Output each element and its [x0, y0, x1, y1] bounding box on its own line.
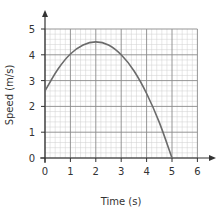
y-axis-title: Speed (m/s)	[4, 65, 15, 126]
y-tick-label: 4	[29, 50, 35, 61]
major-grid	[45, 29, 197, 158]
x-tick-label: 6	[194, 166, 200, 177]
x-tick-label: 5	[169, 166, 175, 177]
y-axis-arrow-icon	[42, 10, 48, 17]
x-axis-title: Time (s)	[100, 196, 142, 207]
speed-curve	[45, 42, 172, 158]
x-tick-label: 0	[42, 166, 48, 177]
x-tick-label: 4	[143, 166, 149, 177]
x-tick-label: 2	[93, 166, 99, 177]
y-tick-label: 0	[29, 153, 35, 164]
y-axis-ticks: 012345	[29, 24, 45, 164]
y-tick-label: 3	[29, 76, 35, 87]
x-axis-ticks: 0123456	[42, 158, 201, 177]
x-axis-arrow-icon	[209, 155, 216, 161]
x-tick-label: 3	[118, 166, 124, 177]
y-tick-label: 1	[29, 127, 35, 138]
axes	[40, 10, 216, 163]
x-tick-label: 1	[67, 166, 73, 177]
y-tick-label: 2	[29, 101, 35, 112]
y-tick-label: 5	[29, 24, 35, 35]
speed-time-chart: 0123456 012345 Time (s) Speed (m/s)	[0, 0, 224, 213]
